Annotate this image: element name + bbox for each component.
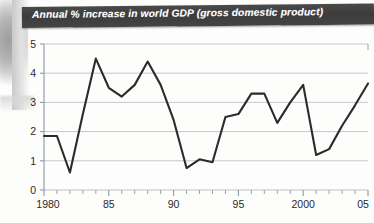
y-axis-label-4: 4 [30, 67, 36, 79]
y-axis-label-5: 5 [30, 38, 36, 50]
y-axis-label-1: 1 [30, 155, 36, 167]
axis-lines [44, 44, 368, 190]
x-axis-label-2000: 2000 [292, 198, 316, 210]
x-axis-label-95: 95 [233, 198, 245, 210]
gdp-data-line [44, 59, 368, 173]
chart-svg: 012345 1980859095200005 [0, 32, 374, 223]
x-axis-label-1980: 1980 [36, 198, 60, 210]
x-axis-label-90: 90 [168, 198, 180, 210]
y-axis-label-2: 2 [30, 125, 36, 137]
x-axis-ticks [44, 190, 368, 196]
page-background: Annual % increase in world GDP (gross do… [0, 0, 374, 223]
y-axis-label-3: 3 [30, 96, 36, 108]
y-axis-label-0: 0 [30, 184, 36, 196]
y-axis-ticks [40, 44, 44, 190]
gridlines [44, 44, 368, 190]
gdp-line-chart: 012345 1980859095200005 [0, 32, 374, 223]
x-axis-labels: 1980859095200005 [36, 198, 369, 210]
x-axis-label-05: 05 [357, 198, 369, 210]
x-axis-label-85: 85 [103, 198, 115, 210]
y-axis-labels: 012345 [30, 38, 36, 196]
